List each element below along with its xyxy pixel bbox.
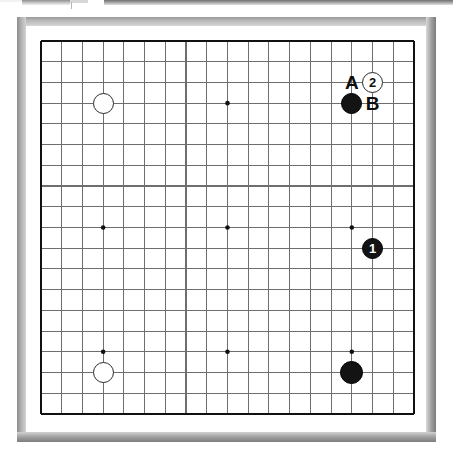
stone-white[interactable] — [93, 362, 114, 383]
stone-white[interactable] — [93, 93, 114, 114]
stone-move-number: 1 — [369, 242, 376, 255]
stone-black[interactable] — [341, 93, 362, 114]
stone-white-2[interactable]: 2 — [362, 72, 383, 93]
marker-b: B — [363, 94, 383, 113]
marker-a: A — [342, 73, 362, 92]
stone-black[interactable] — [340, 361, 363, 384]
stone-layer[interactable]: 21AB — [0, 0, 453, 472]
stone-move-number: 2 — [369, 76, 376, 89]
stone-black-1[interactable]: 1 — [362, 238, 383, 259]
